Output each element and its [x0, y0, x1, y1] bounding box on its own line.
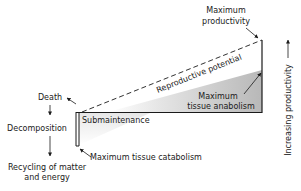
- max-anabolism-label-1: Maximum: [198, 92, 238, 101]
- decomposition-label: Decomposition: [7, 124, 67, 133]
- max-productivity-label-1: Maximum: [206, 6, 246, 15]
- catabolism-bar: [76, 112, 79, 146]
- max-catabolism-label: Maximum tissue catabolism: [90, 153, 202, 162]
- increasing-productivity-label: Increasing productivity: [284, 64, 293, 156]
- max-productivity-label-2: productivity: [202, 17, 250, 26]
- max-productivity-arrow: [246, 28, 258, 38]
- submaintenance-label: Submaintenance: [82, 116, 150, 125]
- recycling-label-1: Recycling of matter: [8, 163, 87, 172]
- diagram-svg: Maximum productivity Reproductive potent…: [0, 0, 301, 191]
- death-label: Death: [38, 93, 62, 102]
- productivity-diagram: Maximum productivity Reproductive potent…: [0, 0, 301, 191]
- death-arrow: [67, 98, 76, 104]
- max-anabolism-label-2: tissue anabolism: [187, 102, 255, 111]
- recycling-label-2: and energy: [24, 173, 70, 182]
